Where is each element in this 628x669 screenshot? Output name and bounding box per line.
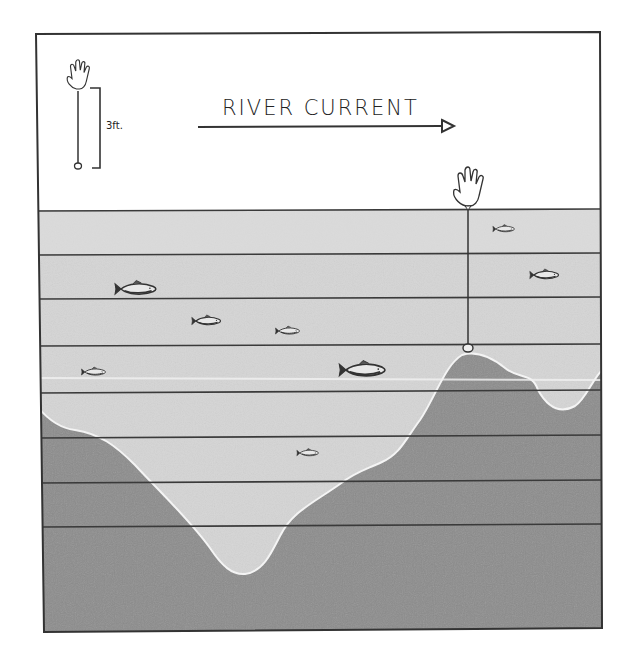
river-current-label: RIVER CURRENT <box>222 96 419 120</box>
scale-length-label: 3ft. <box>106 120 123 131</box>
legend-sinker-icon <box>75 163 82 169</box>
sinker-weight-icon <box>463 344 473 352</box>
